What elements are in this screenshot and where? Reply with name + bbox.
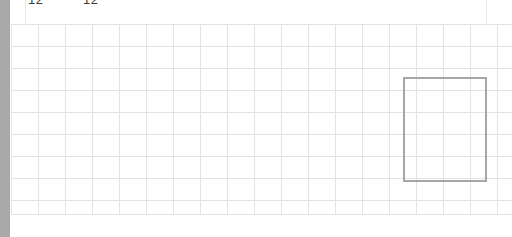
grid-vertical-line	[227, 24, 228, 215]
grid-vertical-line	[65, 24, 66, 215]
grid-vertical-line	[497, 24, 498, 215]
vertical-scrollbar-track[interactable]	[0, 0, 10, 237]
grid-vertical-line	[146, 24, 147, 215]
selected-cell-range[interactable]	[403, 77, 487, 182]
vertical-scrollbar-thumb[interactable]	[0, 0, 10, 215]
header-label-second: 12	[83, 0, 98, 7]
spreadsheet-viewport: 12 12	[0, 0, 512, 237]
grid-vertical-line	[389, 24, 390, 215]
header-divider-left	[25, 0, 26, 24]
grid-vertical-line	[173, 24, 174, 215]
grid-vertical-line	[335, 24, 336, 215]
grid-vertical-line	[11, 24, 12, 215]
grid-sheet[interactable]	[11, 24, 512, 215]
grid-horizontal-line	[11, 200, 512, 201]
grid-vertical-line	[254, 24, 255, 215]
grid-vertical-line	[308, 24, 309, 215]
sheet-bottom-margin	[10, 215, 512, 237]
grid-horizontal-line	[11, 24, 512, 25]
grid-horizontal-line	[11, 46, 512, 47]
grid-vertical-line	[38, 24, 39, 215]
header-divider-right	[486, 0, 487, 24]
grid-vertical-line	[362, 24, 363, 215]
column-header-band: 12 12	[10, 0, 512, 24]
grid-vertical-line	[119, 24, 120, 215]
grid-vertical-line	[200, 24, 201, 215]
grid-horizontal-line	[11, 68, 512, 69]
header-label-first: 12	[28, 0, 43, 7]
grid-vertical-line	[92, 24, 93, 215]
grid-vertical-line	[281, 24, 282, 215]
